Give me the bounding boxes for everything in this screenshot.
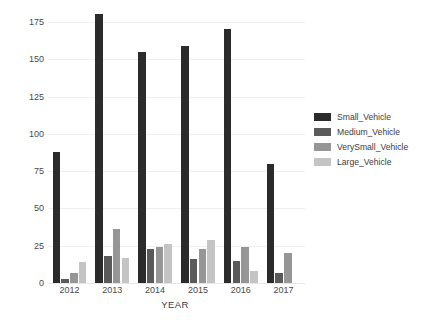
legend-swatch	[314, 143, 331, 151]
bar-groups	[48, 10, 305, 283]
bar	[147, 249, 155, 283]
y-axis-tick-label: 25	[18, 241, 44, 251]
legend-swatch	[314, 128, 331, 136]
y-axis-tick-label: 125	[18, 92, 44, 102]
y-axis-tick-label: 50	[18, 203, 44, 213]
bar	[156, 247, 164, 283]
bar	[122, 258, 130, 283]
bar-group	[267, 10, 301, 283]
bar	[250, 271, 258, 283]
legend-label: Medium_Vehicle	[337, 127, 400, 137]
gridline	[48, 283, 305, 284]
bar	[79, 262, 87, 283]
bar-group	[53, 10, 87, 283]
bar	[190, 259, 198, 283]
bar	[267, 164, 275, 283]
y-axis-tick-label: 75	[18, 166, 44, 176]
legend-item[interactable]: Small_Vehicle	[314, 110, 432, 123]
legend-item[interactable]: Medium_Vehicle	[314, 125, 432, 138]
bar	[104, 256, 112, 283]
bar	[61, 279, 69, 283]
bar	[138, 52, 146, 283]
y-axis-tick-label: 175	[18, 17, 44, 27]
legend-label: VerySmall_Vehicle	[337, 142, 408, 152]
x-axis-tick-label: 2015	[188, 285, 208, 295]
y-axis-tick-label: 100	[18, 129, 44, 139]
x-axis-tick-label: 2016	[231, 285, 251, 295]
legend-swatch	[314, 113, 331, 121]
legend-item[interactable]: VerySmall_Vehicle	[314, 140, 432, 153]
bar-group	[224, 10, 258, 283]
bar	[224, 29, 232, 283]
bar	[284, 253, 292, 283]
x-axis-tick-labels: 201220132014201520162017	[48, 285, 305, 299]
bar	[95, 14, 103, 283]
bar	[241, 247, 249, 283]
bar	[181, 46, 189, 283]
legend: Small_VehicleMedium_VehicleVerySmall_Veh…	[314, 110, 432, 170]
bar	[233, 261, 241, 283]
bar	[53, 152, 61, 283]
legend-swatch	[314, 158, 331, 166]
bar	[70, 273, 78, 283]
plot-area	[48, 10, 305, 283]
x-axis-tick-label: 2017	[274, 285, 294, 295]
bar	[275, 273, 283, 283]
legend-item[interactable]: Large_Vehicle	[314, 155, 432, 168]
bar	[164, 244, 172, 283]
x-axis-tick-label: 2013	[102, 285, 122, 295]
bar-chart-figure: NUMBER OF PERSONS KILLED YEAR 0255075100…	[0, 0, 435, 320]
x-axis-tick-label: 2012	[59, 285, 79, 295]
legend-label: Large_Vehicle	[337, 157, 391, 167]
bar-group	[181, 10, 215, 283]
bar	[199, 249, 207, 283]
bar	[113, 229, 121, 283]
x-axis-title: YEAR	[45, 299, 305, 310]
legend-label: Small_Vehicle	[337, 112, 391, 122]
y-axis-tick-label: 150	[18, 54, 44, 64]
bar-group	[138, 10, 172, 283]
x-axis-tick-label: 2014	[145, 285, 165, 295]
bar	[207, 240, 215, 283]
y-axis-tick-labels: 0255075100125150175	[14, 0, 44, 320]
bar-group	[95, 10, 129, 283]
y-axis-tick-label: 0	[18, 278, 44, 288]
